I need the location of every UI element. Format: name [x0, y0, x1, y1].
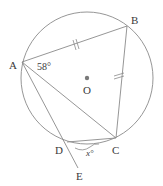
label-b: B — [131, 14, 138, 26]
label-d: D — [55, 144, 63, 156]
label-o: O — [83, 84, 91, 96]
segment-bc — [116, 26, 127, 138]
label-e: E — [76, 170, 83, 182]
angle-label-58: 58° — [37, 61, 51, 72]
label-c: C — [112, 144, 119, 156]
segment-ac — [22, 62, 116, 138]
circle-geometry-diagram: A B C D E O 58° x° — [0, 0, 163, 186]
angle-label-x: x° — [85, 148, 94, 158]
label-a: A — [9, 59, 17, 71]
segment-ae — [22, 62, 78, 168]
center-dot — [85, 76, 89, 80]
